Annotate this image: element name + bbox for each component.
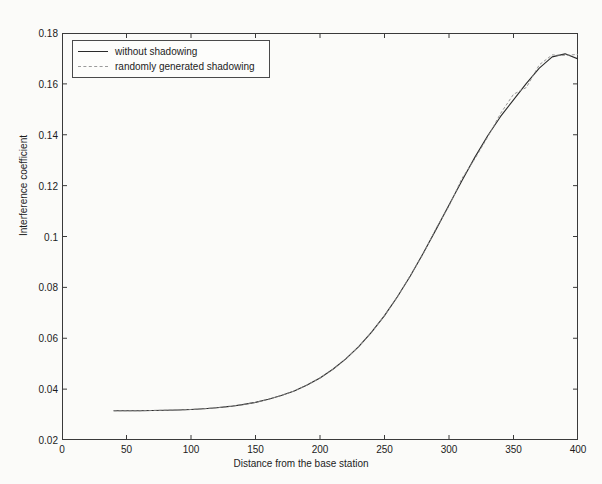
legend-label: without shadowing: [115, 45, 197, 58]
x-tick-label: 0: [59, 444, 65, 455]
x-tick-label: 400: [570, 444, 587, 455]
x-tick-label: 100: [183, 444, 200, 455]
legend-label: randomly generated shadowing: [115, 60, 255, 73]
x-tick-label: 250: [376, 444, 393, 455]
data-series-line: [114, 54, 578, 410]
y-tick-label: 0.16: [14, 78, 58, 89]
x-axis-title: Distance from the base station: [0, 458, 602, 469]
x-tick-label: 50: [121, 444, 132, 455]
x-tick-label: 350: [505, 444, 522, 455]
legend-item-randomly-generated-shadowing: randomly generated shadowing: [78, 59, 264, 74]
data-series-line: [114, 54, 578, 411]
legend-line-sample-solid-icon: [78, 51, 108, 52]
x-tick-label: 300: [441, 444, 458, 455]
chart-plot-area: [62, 33, 578, 440]
y-tick-label: 0.18: [14, 28, 58, 39]
y-tick-label: 0.06: [14, 333, 58, 344]
x-tick-label: 150: [247, 444, 264, 455]
y-tick-label: 0.04: [14, 384, 58, 395]
y-tick-label: 0.08: [14, 282, 58, 293]
chart-legend: without shadowing randomly generated sha…: [72, 40, 270, 78]
figure-container: 0.020.040.060.080.10.120.140.160.18 0501…: [0, 0, 602, 484]
axis-ticks: [62, 33, 578, 440]
y-tick-label: 0.02: [14, 435, 58, 446]
y-axis-title: Interference coefficient: [18, 135, 29, 236]
x-tick-label: 200: [312, 444, 329, 455]
data-series-group: [114, 54, 578, 411]
legend-line-sample-dashed-icon: [78, 66, 108, 67]
legend-item-without-shadowing: without shadowing: [78, 44, 264, 59]
